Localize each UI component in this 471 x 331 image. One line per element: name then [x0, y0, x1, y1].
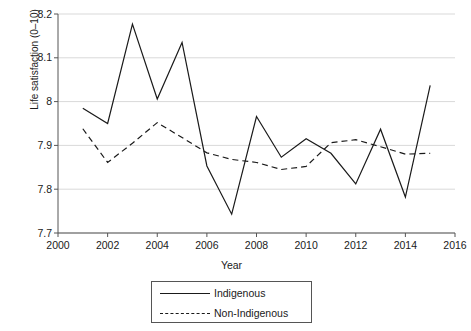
legend-line-dashed-icon — [156, 307, 214, 319]
legend: Indigenous Non-Indigenous — [151, 281, 312, 323]
x-tick-label: 2006 — [187, 240, 227, 251]
x-tick-label: 2004 — [137, 240, 177, 251]
data-series-layer — [83, 24, 430, 214]
x-tick-label: 2012 — [336, 240, 376, 251]
x-axis-label: Year — [0, 259, 463, 271]
x-tick-label: 2010 — [286, 240, 326, 251]
legend-line-solid-icon — [156, 287, 214, 299]
legend-item-non-indigenous: Non-Indigenous — [152, 302, 313, 323]
series-line-non-indigenous — [83, 123, 430, 170]
legend-label: Non-Indigenous — [214, 307, 288, 319]
x-axis-ticks — [58, 233, 455, 237]
series-line-indigenous — [83, 24, 430, 214]
y-axis-ticks — [54, 14, 58, 233]
legend-label: Indigenous — [214, 287, 265, 299]
x-tick-label: 2008 — [237, 240, 277, 251]
gridlines — [58, 14, 455, 233]
x-tick-label: 2016 — [435, 240, 471, 251]
axis-lines — [58, 14, 455, 233]
x-tick-label: 2014 — [385, 240, 425, 251]
x-tick-label: 2000 — [38, 240, 78, 251]
legend-item-indigenous: Indigenous — [152, 282, 313, 303]
x-tick-label: 2002 — [88, 240, 128, 251]
